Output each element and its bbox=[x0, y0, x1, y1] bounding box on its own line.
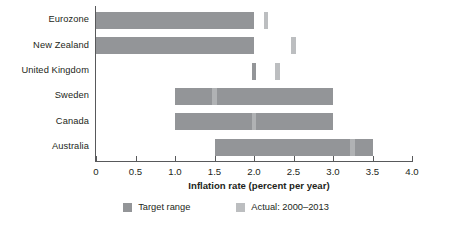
x-tick bbox=[373, 156, 374, 162]
x-axis-title: Inflation rate (percent per year) bbox=[0, 180, 452, 191]
target-range-bar bbox=[175, 88, 333, 105]
actual-value-marker bbox=[212, 88, 217, 105]
chart-legend: Target rangeActual: 2000–2013 bbox=[0, 202, 452, 212]
category-label-united-kingdom: United Kingdom bbox=[21, 65, 89, 75]
legend-label: Target range bbox=[138, 202, 190, 212]
x-tick-label: 2.0 bbox=[247, 166, 260, 177]
x-tick-label: 3.0 bbox=[326, 166, 339, 177]
x-tick bbox=[215, 156, 216, 162]
x-tick bbox=[96, 156, 97, 162]
x-tick-label: 0 bbox=[93, 166, 98, 177]
bars-layer bbox=[96, 8, 412, 160]
x-tick bbox=[254, 156, 255, 162]
x-tick-label: 4.0 bbox=[405, 166, 418, 177]
legend-item: Actual: 2000–2013 bbox=[236, 202, 329, 212]
target-point-marker bbox=[252, 63, 257, 80]
x-tick bbox=[412, 156, 413, 162]
category-label-canada: Canada bbox=[56, 116, 89, 126]
bar-row bbox=[96, 113, 412, 138]
actual-value-marker bbox=[264, 12, 269, 29]
bar-row bbox=[96, 37, 412, 62]
legend-swatch bbox=[236, 203, 245, 212]
category-label-sweden: Sweden bbox=[55, 90, 89, 100]
x-tick bbox=[175, 156, 176, 162]
legend-item: Target range bbox=[123, 202, 190, 212]
category-label-new-zealand: New Zealand bbox=[33, 40, 89, 50]
actual-value-marker bbox=[252, 113, 257, 130]
legend-label: Actual: 2000–2013 bbox=[251, 202, 329, 212]
inflation-target-chart: EurozoneNew ZealandUnited KingdomSwedenC… bbox=[0, 0, 452, 225]
bar-row bbox=[96, 63, 412, 88]
x-tick-label: 1.5 bbox=[208, 166, 221, 177]
x-tick-label: 2.5 bbox=[287, 166, 300, 177]
x-tick bbox=[333, 156, 334, 162]
x-tick bbox=[136, 156, 137, 162]
x-tick-label: 3.5 bbox=[366, 166, 379, 177]
bar-row bbox=[96, 88, 412, 113]
legend-swatch bbox=[123, 203, 132, 212]
category-label-eurozone: Eurozone bbox=[48, 14, 89, 24]
x-tick-label: 1.0 bbox=[168, 166, 181, 177]
actual-value-marker bbox=[291, 37, 296, 54]
x-tick-label: 0.5 bbox=[129, 166, 142, 177]
bar-row bbox=[96, 12, 412, 37]
category-label-australia: Australia bbox=[52, 141, 89, 151]
actual-value-marker bbox=[350, 139, 355, 156]
target-range-bar bbox=[96, 12, 254, 29]
target-range-bar bbox=[96, 37, 254, 54]
x-tick bbox=[294, 156, 295, 162]
target-range-bar bbox=[215, 139, 373, 156]
actual-value-marker bbox=[275, 63, 280, 80]
